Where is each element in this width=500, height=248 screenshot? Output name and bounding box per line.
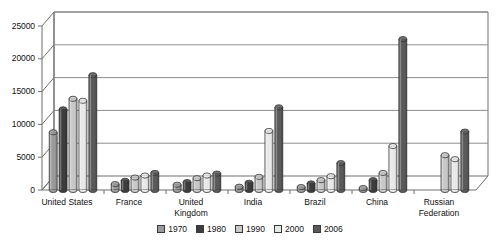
legend-swatch-icon (274, 225, 282, 233)
bar (79, 98, 87, 192)
x-axis-category-label: France (98, 197, 160, 208)
bar (275, 105, 283, 193)
legend-label: 1980 (207, 224, 226, 234)
bar (131, 175, 139, 193)
x-axis-category-label: United States (36, 197, 98, 208)
bar (297, 184, 305, 192)
y-axis-tick-label: 0 (0, 185, 35, 195)
y-axis-tick-label: 25000 (0, 21, 35, 31)
x-axis-category-label: United Kingdom (160, 197, 222, 218)
legend-item: 2000 (274, 224, 304, 234)
bar-chart: 0500010000150002000025000 United StatesF… (0, 0, 500, 248)
bar (193, 176, 201, 193)
legend-item: 1990 (235, 224, 265, 234)
bar (69, 96, 77, 192)
bar (265, 128, 273, 192)
legend-label: 1990 (246, 224, 265, 234)
bar (121, 178, 129, 192)
x-axis-category-label: Brazil (284, 197, 346, 208)
y-axis-tick-label: 5000 (0, 152, 35, 162)
bar (141, 173, 149, 193)
legend-item: 2006 (313, 224, 343, 234)
legend-swatch-icon (235, 225, 243, 233)
bar (111, 181, 119, 192)
bar (183, 180, 191, 193)
legend-label: 2000 (285, 224, 304, 234)
x-axis-category-label: Russian Federation (408, 197, 470, 218)
bar (49, 130, 57, 193)
bar (213, 171, 221, 193)
bar (151, 170, 159, 192)
bar (173, 182, 181, 192)
bar (203, 173, 211, 193)
y-axis-tick-label: 10000 (0, 119, 35, 129)
legend-swatch-icon (313, 225, 321, 233)
legend-label: 2006 (324, 224, 343, 234)
x-axis-category-label: India (222, 197, 284, 208)
chart-legend: 19701980199020002006 (0, 224, 500, 234)
bar (359, 185, 367, 192)
bar (89, 73, 97, 193)
bar (441, 153, 449, 193)
legend-item: 1980 (196, 224, 226, 234)
legend-swatch-icon (157, 225, 165, 233)
bar (307, 181, 315, 193)
y-axis-tick-label: 20000 (0, 53, 35, 63)
bar (399, 37, 407, 193)
x-axis-category-label: China (346, 197, 408, 208)
bar (317, 178, 325, 193)
bar (337, 161, 345, 193)
bar (389, 143, 397, 192)
bar (255, 174, 263, 192)
legend-label: 1970 (168, 224, 187, 234)
bar (461, 129, 469, 193)
bar (245, 180, 253, 192)
legend-item: 1970 (157, 224, 187, 234)
legend-swatch-icon (196, 225, 204, 233)
bar (59, 107, 67, 193)
bar (451, 157, 459, 193)
bar (379, 170, 387, 192)
bar (235, 184, 243, 192)
y-axis-tick-label: 15000 (0, 86, 35, 96)
bar (369, 178, 377, 193)
bar (327, 174, 335, 193)
